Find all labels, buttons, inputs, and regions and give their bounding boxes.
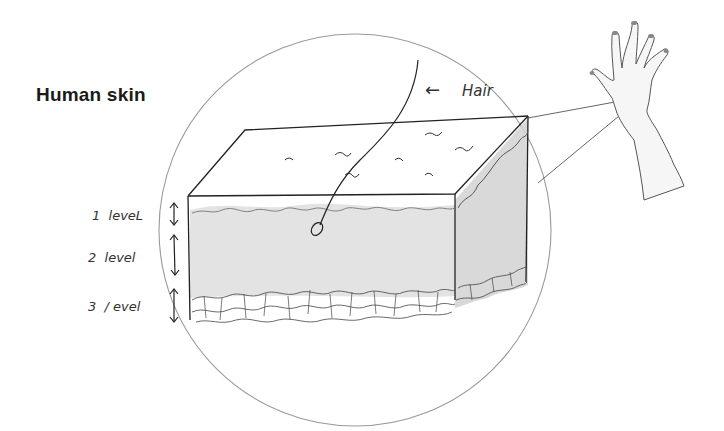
hair-label-group: ← Hair: [425, 79, 494, 100]
skin-side-face: [455, 118, 528, 308]
hair-arrow: ←: [425, 79, 440, 100]
surface-texture: [285, 132, 473, 177]
skin-diagram-svg: ← Hair 1 leveL 2 level 3 / evel: [0, 0, 724, 431]
hand-drawing: [592, 22, 684, 201]
level-1-arrow-icon: [170, 203, 178, 225]
level-1-label: 1 leveL: [92, 208, 143, 223]
level-2-arrow-icon: [170, 235, 179, 275]
level-annotations: 1 leveL 2 level 3 / evel: [88, 203, 179, 322]
diagram-canvas: Human skin: [0, 0, 724, 431]
level-3-label: 3 / evel: [88, 299, 141, 314]
hair-label: Hair: [462, 82, 494, 100]
level-3-arrow-icon: [170, 289, 178, 322]
level-2-label: 2 level: [88, 250, 136, 265]
